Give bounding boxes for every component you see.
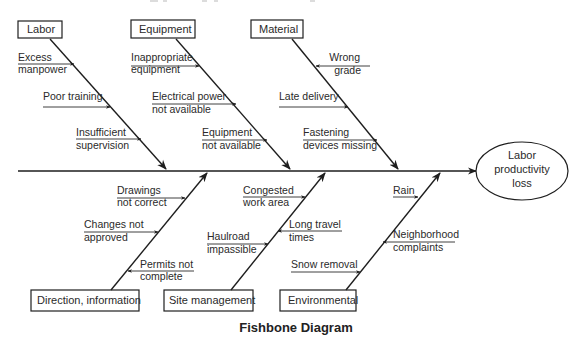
cause-changes-not-approved-l2: approved [84, 231, 128, 243]
cause-electrical-power-l1: Electrical power [152, 90, 227, 102]
cause-inappropriate-equipment-l2: equipment [131, 63, 180, 75]
cause-equipment-not-available-l2: not available [202, 139, 261, 151]
cause-haulroad-impassible-l2: impassible [207, 243, 257, 255]
category-label-labor: Labor [27, 23, 55, 35]
figure-title: Fishbone Diagram [239, 320, 352, 335]
cause-excess-manpower-l2: manpower [18, 63, 68, 75]
cause-neighborhood-complaints-l1: Neighborhood [393, 228, 459, 240]
category-material: Material Wrong grade Late delivery Faste… [251, 20, 398, 169]
cause-haulroad-impassible-l1: Haulroad [207, 230, 250, 242]
cause-congested-work-area-l1: Congested [243, 184, 294, 196]
effect-line-1: Labor [508, 149, 536, 161]
cause-inappropriate-equipment-l1: Inappropriate [131, 51, 193, 63]
cause-insufficient-supervision-l2: supervision [76, 139, 129, 151]
cause-permits-not-complete-l1: Permits not [140, 258, 193, 270]
cause-neighborhood-complaints-l2: complaints [393, 241, 443, 253]
cause-wrong-grade-l1: Wrong [329, 51, 360, 63]
category-label-site-management: Site management [169, 294, 255, 306]
effect-node: Labor productivity loss [476, 142, 568, 200]
cause-fastening-devices-l2: devices missing [303, 139, 377, 151]
effect-line-2: productivity [494, 163, 550, 175]
cause-insufficient-supervision-l1: Insufficient [76, 126, 126, 138]
cause-long-travel-times-l2: times [289, 231, 314, 243]
cause-excess-manpower-l1: Excess [18, 51, 52, 63]
category-label-equipment: Equipment [139, 23, 192, 35]
cause-equipment-not-available-l1: Equipment [202, 126, 252, 138]
cropped-caption-remnant [150, 0, 315, 2]
cause-poor-training: Poor training [43, 90, 103, 102]
category-equipment: Equipment Inappropriate equipment Electr… [131, 20, 290, 169]
cause-fastening-devices-l1: Fastening [303, 126, 349, 138]
category-labor: Labor Excess manpower Poor training Insu… [18, 21, 166, 169]
category-label-direction: Direction, information [37, 294, 141, 306]
cause-changes-not-approved-l1: Changes not [84, 218, 144, 230]
cause-permits-not-complete-l2: complete [140, 270, 183, 282]
cause-electrical-power-l2: not available [152, 103, 211, 115]
effect-line-3: loss [512, 177, 532, 189]
category-label-environmental: Environmental [288, 294, 358, 306]
cause-rain: Rain [393, 184, 415, 196]
category-label-material: Material [259, 23, 298, 35]
cause-long-travel-times-l1: Long travel [289, 218, 341, 230]
fishbone-diagram: Labor productivity loss Labor Excess man… [0, 0, 583, 342]
cause-congested-work-area-l2: work area [242, 196, 289, 208]
cause-drawings-not-correct-l1: Drawings [117, 184, 161, 196]
cause-snow-removal: Snow removal [291, 258, 358, 270]
cause-late-delivery: Late delivery [279, 90, 339, 102]
